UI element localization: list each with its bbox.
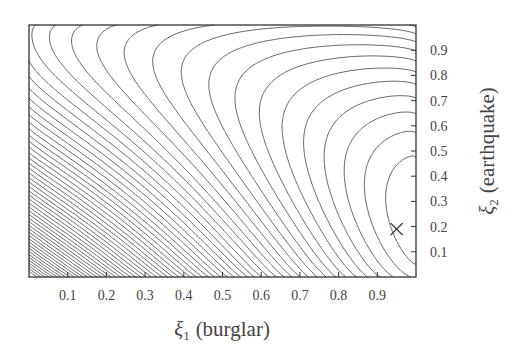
contour-line bbox=[282, 68, 416, 277]
y-tick-label: 0.6 bbox=[430, 119, 448, 134]
x-tick-label: 0.4 bbox=[175, 288, 193, 303]
contour-line bbox=[235, 45, 416, 277]
contour-line bbox=[29, 235, 88, 277]
y-axis-symbol: ξ bbox=[475, 206, 499, 215]
contour-line bbox=[209, 35, 416, 277]
y-tick-label: 0.8 bbox=[430, 68, 448, 83]
contour-line bbox=[29, 214, 116, 277]
y-tick-label: 0.9 bbox=[430, 43, 448, 58]
contour-line bbox=[29, 153, 191, 277]
contour-line bbox=[344, 112, 416, 277]
contour-line bbox=[32, 25, 269, 277]
contour-line bbox=[29, 107, 234, 277]
contour-line bbox=[72, 25, 285, 277]
contour-line bbox=[29, 163, 179, 277]
y-axis-text: (earthquake) bbox=[475, 87, 499, 193]
contour-line bbox=[386, 156, 416, 264]
y-tick-label: 0.5 bbox=[430, 144, 448, 159]
x-axis-symbol: ξ bbox=[174, 317, 183, 341]
contour-chart: 0.10.20.30.40.50.60.70.80.9 0.10.20.30.4… bbox=[0, 0, 523, 357]
plot-frame bbox=[29, 25, 416, 277]
x-axis-label: ξ1(burglar) bbox=[174, 317, 270, 343]
x-tick-label: 0.5 bbox=[214, 288, 232, 303]
x-tick-label: 0.2 bbox=[98, 288, 116, 303]
x-tick-label: 0.9 bbox=[369, 288, 387, 303]
contour-line bbox=[259, 56, 416, 277]
y-axis-label: ξ2(earthquake) bbox=[475, 87, 501, 215]
x-axis-subscript: 1 bbox=[183, 328, 190, 343]
y-tick-label: 0.1 bbox=[430, 245, 448, 260]
y-tick-label: 0.4 bbox=[430, 169, 448, 184]
x-mark-icon bbox=[391, 223, 403, 235]
y-tick-label: 0.2 bbox=[430, 220, 448, 235]
x-tick-label: 0.7 bbox=[291, 288, 309, 303]
contour-line bbox=[50, 25, 277, 277]
y-axis-subscript: 2 bbox=[486, 199, 501, 206]
x-tick-label: 0.6 bbox=[252, 288, 270, 303]
x-tick-label: 0.3 bbox=[136, 288, 154, 303]
minimum-marker bbox=[391, 223, 403, 235]
x-tick-label: 0.1 bbox=[59, 288, 77, 303]
contour-line bbox=[124, 25, 300, 277]
y-tick-label: 0.3 bbox=[430, 194, 448, 209]
x-tick-label: 0.8 bbox=[330, 288, 348, 303]
contour-line bbox=[29, 254, 62, 277]
x-axis-text: (burglar) bbox=[196, 317, 270, 341]
contour-line bbox=[29, 173, 168, 277]
y-tick-label: 0.7 bbox=[430, 94, 448, 109]
contour-line bbox=[364, 131, 416, 277]
contour-line bbox=[29, 195, 141, 277]
contour-lines bbox=[29, 25, 416, 277]
